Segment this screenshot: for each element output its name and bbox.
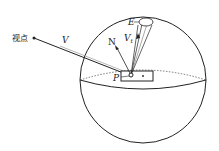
viewpoint-label: 视点 xyxy=(12,33,28,43)
normal-label: N xyxy=(108,37,116,47)
cone-line-2 xyxy=(131,24,147,75)
cone-cap xyxy=(139,18,153,26)
sphere-diagram: 视点 V N Vt E P xyxy=(0,0,219,151)
surface-point-p xyxy=(129,73,133,77)
viewpoint-dot xyxy=(33,37,36,40)
view-ray xyxy=(34,38,131,76)
cone-line-1 xyxy=(131,24,142,75)
patch-center-dot xyxy=(142,75,144,77)
surface-point-label: P xyxy=(112,73,120,83)
surface-patch xyxy=(121,71,153,81)
view-vector-label: V xyxy=(62,35,70,45)
transmitted-vector-label: Vt xyxy=(124,33,134,44)
view-ray-inner xyxy=(60,46,131,74)
eye-point-label: E xyxy=(127,17,135,27)
